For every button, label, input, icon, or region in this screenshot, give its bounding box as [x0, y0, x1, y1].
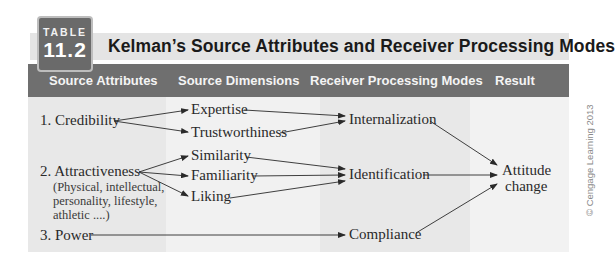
arrow-expertise-internalization	[244, 110, 345, 116]
arrow-trustworthiness-internalization	[280, 121, 345, 133]
mode-identification: Identification	[349, 166, 430, 183]
arrow-compliance-attitude	[416, 184, 497, 233]
badge-number: 11.2	[39, 38, 91, 62]
badge-label: TABLE	[39, 26, 91, 38]
dimension-trustworthiness: Trustworthiness	[191, 124, 287, 141]
table-number-badge: TABLE 11.2	[37, 16, 93, 72]
attribute-power: 3. Power	[40, 227, 93, 244]
mode-internalization: Internalization	[349, 111, 436, 128]
arrow-credibility-trustworthiness	[114, 121, 188, 132]
result-line-2: change	[505, 178, 547, 195]
arrow-familiarity-identification	[253, 175, 345, 176]
dimension-expertise: Expertise	[191, 101, 248, 118]
arrow-attractiveness-similarity	[139, 156, 188, 172]
attribute-attractiveness: 2. Attractiveness	[40, 163, 140, 180]
dimension-similarity: Similarity	[191, 147, 251, 164]
arrow-credibility-expertise	[114, 110, 188, 121]
attractiveness-detail-2: personality, lifestyle,	[53, 194, 157, 208]
arrow-similarity-identification	[246, 157, 345, 169]
attractiveness-detail-1: (Physical, intellectual,	[53, 180, 164, 194]
mode-compliance: Compliance	[349, 226, 421, 243]
attractiveness-detail-3: athletic ....)	[53, 208, 110, 222]
dimension-liking: Liking	[191, 188, 231, 205]
attribute-credibility: 1. Credibility	[40, 112, 120, 129]
arrow-internalization-attitude	[430, 121, 497, 165]
result-line-1: Attitude	[502, 162, 551, 179]
dimension-familiarity: Familiarity	[191, 167, 258, 184]
